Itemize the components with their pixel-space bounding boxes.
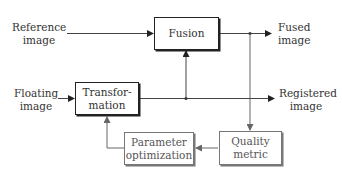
fusion-block: Fusion <box>154 17 219 50</box>
quality-metric-label-line2: metric <box>233 148 268 161</box>
floating-image-label-line1: Floating <box>14 87 58 100</box>
quality-metric-block: Quality metric <box>219 131 282 165</box>
reference-image-label-line2: image <box>12 34 66 47</box>
parameter-optimization-block: Parameter optimization <box>124 132 194 165</box>
transformation-block: Transfor- mation <box>75 82 139 115</box>
parameter-optimization-label-line2: optimization <box>126 149 192 162</box>
floating-image-label: Floating image <box>14 87 58 112</box>
registered-image-label-line2: image <box>279 100 333 113</box>
parameter-to-transformation-arrow <box>107 117 124 148</box>
registered-image-label-line1: Registered <box>279 87 333 100</box>
transformation-block-label-line2: mation <box>89 99 126 112</box>
registered-image-label: Registered image <box>279 87 333 112</box>
fused-image-label-line1: Fused <box>278 21 318 34</box>
reference-image-label-line1: Reference <box>12 21 66 34</box>
fusion-block-label: Fusion <box>169 27 205 40</box>
fused-image-label-line2: image <box>278 34 318 47</box>
parameter-optimization-label-line1: Parameter <box>131 136 187 149</box>
floating-image-label-line2: image <box>14 100 58 113</box>
quality-metric-label-line1: Quality <box>231 135 270 148</box>
transformation-block-label-line1: Transfor- <box>82 86 131 99</box>
fused-image-label: Fused image <box>278 21 318 46</box>
reference-image-label: Reference image <box>12 21 66 46</box>
